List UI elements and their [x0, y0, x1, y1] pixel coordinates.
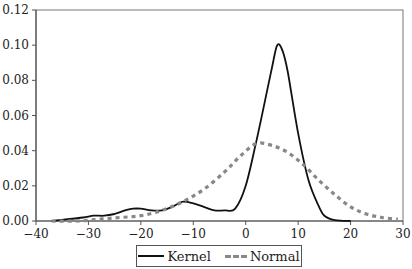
x-tick-label: −40: [23, 227, 48, 241]
y-tick-label: 0.06: [2, 109, 29, 123]
x-tick-label: −10: [181, 227, 206, 241]
x-tick-label: −30: [76, 227, 101, 241]
series-kernel-line: [52, 44, 351, 221]
dashed-line-icon: [225, 255, 247, 258]
x-tick-label: 0: [242, 227, 250, 241]
legend-label-kernel: Kernel: [167, 249, 211, 264]
axes: 0.000.020.040.060.080.100.12−40−30−20−10…: [2, 3, 410, 241]
y-tick-label: 0.04: [2, 144, 29, 158]
x-tick-label: 30: [395, 227, 410, 241]
series-lines: [52, 44, 398, 221]
x-tick-label: −20: [128, 227, 153, 241]
x-tick-label: 20: [343, 227, 358, 241]
series-normal-line: [52, 143, 398, 221]
solid-line-icon: [138, 255, 164, 257]
y-tick-label: 0.10: [2, 38, 29, 52]
y-tick-label: 0.12: [2, 3, 29, 17]
legend-item-kernel: Kernel: [138, 249, 211, 264]
chart-plot: 0.000.020.040.060.080.100.12−40−30−20−10…: [0, 0, 412, 245]
y-tick-label: 0.08: [2, 73, 29, 87]
x-tick-label: 10: [291, 227, 306, 241]
legend: Kernel Normal: [136, 245, 302, 267]
plot-frame: [36, 10, 403, 221]
legend-item-normal: Normal: [225, 249, 300, 264]
y-tick-label: 0.02: [2, 179, 29, 193]
legend-label-normal: Normal: [250, 249, 300, 264]
y-tick-label: 0.00: [2, 214, 29, 228]
